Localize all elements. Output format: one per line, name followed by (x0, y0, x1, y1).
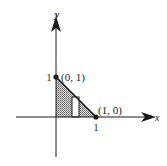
diagram-figure: y x 1 1 (0, 1) (1, 0) (0, 0, 167, 166)
x-axis-label: x (154, 112, 160, 123)
point-label-1-0: (1, 0) (98, 104, 122, 117)
point-0-1 (53, 74, 58, 79)
y-tick-label: 1 (47, 72, 52, 83)
y-axis-label: y (54, 9, 60, 20)
x-tick-label: 1 (94, 122, 99, 133)
point-label-0-1: (0, 1) (61, 71, 85, 84)
